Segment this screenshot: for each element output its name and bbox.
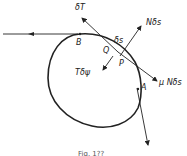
normal-force-arrow [120, 26, 141, 56]
point-a-marker [137, 88, 139, 90]
label-q: Q [103, 47, 109, 55]
label-a: A [141, 84, 146, 92]
t-delta-psi-arrow [103, 56, 113, 70]
point-b-marker [79, 33, 81, 35]
belt-loop-curve [48, 34, 141, 127]
label-n-delta-s: Nδs [146, 19, 161, 27]
figure-caption: Fig. 1?? [78, 150, 104, 156]
arrow-left-icon [28, 32, 34, 36]
tension-line-a [137, 88, 148, 145]
label-delta-t: δT [75, 4, 85, 12]
label-b: B [76, 39, 82, 47]
label-mu-n-delta-s: μ Nδs [159, 79, 182, 87]
delta-t-arrow [82, 18, 118, 52]
label-p: P [119, 60, 124, 68]
label-delta-s: δs [114, 37, 123, 45]
label-t-delta-psi: Tδψ [75, 69, 90, 77]
